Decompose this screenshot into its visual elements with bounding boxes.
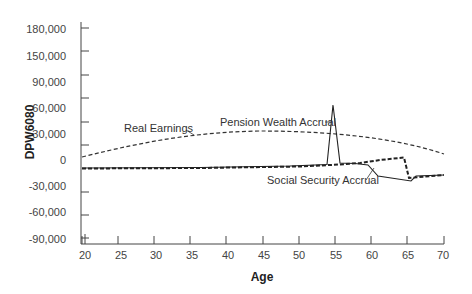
x-tick-label: 40 — [222, 249, 234, 261]
y-tick-label: 150,000 — [26, 50, 66, 62]
annotation-pension-wealth-accrual: Pension Wealth Accrual — [220, 116, 336, 128]
y-ticks — [81, 28, 89, 244]
annotation-real-earnings: Real Earnings — [124, 122, 194, 134]
x-tick-label: 55 — [330, 249, 342, 261]
y-tick-label: -30,000 — [29, 180, 66, 192]
y-tick-label: 90,000 — [32, 76, 66, 88]
x-ticks — [82, 236, 444, 244]
x-tick-label: 45 — [258, 249, 270, 261]
x-tick-label: 50 — [293, 249, 305, 261]
y-tick-label: 0 — [60, 154, 66, 166]
y-tick-label: -90,000 — [29, 233, 66, 245]
y-tick-label: 30,000 — [32, 128, 66, 140]
chart: DPW6080 180,000 150,000 90,000 60,000 30… — [0, 0, 472, 294]
x-tick-label: 35 — [186, 249, 198, 261]
x-tick-label: 60 — [366, 249, 378, 261]
x-tick-label: 20 — [79, 249, 91, 261]
series-real-earnings — [82, 131, 444, 157]
x-tick-label: 65 — [402, 249, 414, 261]
x-tick-label: 25 — [115, 249, 127, 261]
annotation-social-security-accrual: Social Security Accrual — [267, 174, 379, 186]
x-tick-label: 30 — [150, 249, 162, 261]
y-tick-label: 180,000 — [26, 23, 66, 35]
x-tick-label: 70 — [437, 249, 449, 261]
x-axis-title: Age — [251, 270, 274, 284]
x-tick-labels: 20 25 30 35 40 45 50 55 60 65 70 — [79, 249, 449, 261]
y-tick-labels: 180,000 150,000 90,000 60,000 30,000 0 -… — [26, 23, 66, 245]
y-tick-label: 60,000 — [32, 102, 66, 114]
y-tick-label: -60,000 — [29, 206, 66, 218]
series-social-security-accrual — [82, 158, 444, 179]
